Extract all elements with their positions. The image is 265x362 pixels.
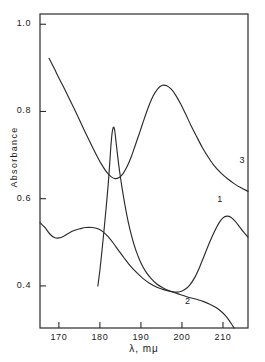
plot-canvas (0, 0, 265, 362)
curve-label-1: 1 (217, 194, 222, 204)
x-tick-label: 170 (39, 332, 79, 342)
curve-label-3: 3 (239, 155, 244, 165)
x-tick-label: 210 (203, 332, 243, 342)
x-axis-ticks (59, 322, 223, 328)
y-axis-ticks (40, 24, 46, 286)
curve-label-2: 2 (185, 296, 190, 306)
curve-2 (98, 127, 234, 328)
y-tick-label: 0.4 (0, 280, 31, 290)
x-axis-title: λ, mμ (40, 343, 248, 354)
axes-frame (40, 14, 248, 328)
plot-frame (40, 14, 248, 328)
y-tick-label: 1.0 (0, 18, 31, 28)
data-curves (40, 58, 248, 328)
x-tick-label: 190 (121, 332, 161, 342)
x-tick-label: 180 (80, 332, 120, 342)
y-tick-label: 0.8 (0, 105, 31, 115)
curve-3 (49, 58, 248, 191)
y-axis-title: Absorbance (9, 116, 19, 198)
absorbance-spectrum-figure: 0.40.60.81.0 170180190200210 123 Absorba… (0, 0, 265, 362)
curve-1 (40, 216, 248, 292)
x-tick-label: 200 (162, 332, 202, 342)
